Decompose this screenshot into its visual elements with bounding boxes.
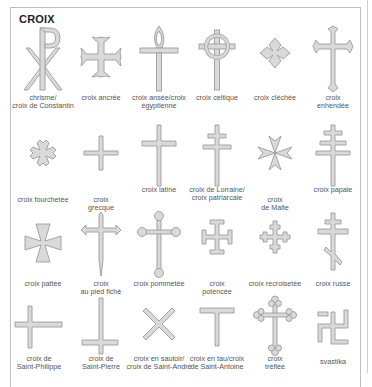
cross-item-ancree: croix ancrée <box>72 24 130 102</box>
trefle-cross-icon <box>252 296 298 355</box>
saltire-cross-icon <box>136 300 182 355</box>
pommee-cross-icon <box>136 210 182 280</box>
saint-peter-cross-icon <box>78 298 124 355</box>
cross-item-celtique: croix celtique <box>188 24 246 102</box>
saint-philip-cross-icon <box>11 300 67 355</box>
cross-item-papale: croix papale <box>304 122 362 194</box>
ankh-icon <box>136 24 182 94</box>
latin-cross-icon <box>136 122 182 192</box>
cross-item-clechee: croix cléchée <box>246 24 304 102</box>
clechee-cross-icon <box>252 24 298 94</box>
cross-item-recroisetee: croix recroisetée <box>246 210 304 288</box>
cross-item-pattee: croix pattée <box>14 210 72 288</box>
crosslet-cross-icon <box>252 210 298 280</box>
enhendee-cross-icon <box>310 24 356 94</box>
fitchee-cross-icon <box>78 210 124 280</box>
lorraine-cross-icon <box>194 122 240 192</box>
cross-item-lorraine: croix de Lorraine/croix patriarcale <box>188 122 246 203</box>
pattee-cross-icon <box>20 210 66 280</box>
chi-rho-icon <box>20 24 66 94</box>
cross-item-russe: croix russe <box>304 210 362 288</box>
fourchetee-cross-icon <box>20 126 66 196</box>
cross-item-svastika: svastika <box>304 300 362 366</box>
cross-item-fourchetee: croix fourchetée <box>14 126 72 204</box>
celtic-cross-icon <box>194 24 240 94</box>
maltese-cross-icon <box>252 126 298 196</box>
cross-item-pommetee: croix pommetée <box>130 210 188 288</box>
russian-cross-icon <box>310 210 356 280</box>
cross-item-latine: croix latine <box>130 122 188 194</box>
potent-cross-icon <box>194 210 240 280</box>
cross-item-saint-philippe: croix deSaint-Philippe <box>10 300 68 372</box>
anchored-cross-icon <box>78 24 124 94</box>
tau-cross-icon <box>194 300 240 355</box>
cross-item-malte: croixde Malte <box>246 126 304 213</box>
swastika-icon <box>310 300 356 355</box>
cross-item-grecque: croixgrecque <box>72 126 130 213</box>
papal-cross-icon <box>310 122 356 192</box>
greek-cross-icon <box>78 126 124 196</box>
cross-item-enhendee: croixenhendée <box>304 24 362 111</box>
